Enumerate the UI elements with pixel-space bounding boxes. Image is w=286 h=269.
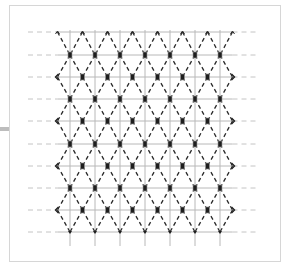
diagonal-edge — [195, 77, 208, 99]
diagonal-edge — [183, 32, 196, 55]
diagonal-edge — [208, 77, 221, 99]
lattice-node — [143, 185, 147, 191]
lattice-node — [181, 163, 185, 169]
diagonal-edge — [58, 166, 71, 188]
diagonal-edge — [158, 188, 171, 210]
diagonal-edge — [83, 210, 96, 232]
diagonal-edge — [183, 121, 196, 144]
diagonal-edge — [58, 99, 71, 121]
diagonal-edge — [145, 99, 158, 121]
lattice-node — [181, 118, 185, 124]
diagonal-edge — [145, 32, 158, 55]
diagonal-edge — [170, 188, 183, 210]
diagonal-edge — [158, 144, 171, 166]
diagonal-edge — [133, 77, 146, 99]
diagonal-edge — [83, 99, 96, 121]
lattice-node — [118, 185, 122, 191]
diagonal-edge — [120, 166, 133, 188]
diagonal-edge — [220, 166, 233, 188]
lattice-node — [93, 185, 97, 191]
diagonal-edge — [195, 188, 208, 210]
lattice-node — [143, 52, 147, 58]
lattice-node — [193, 185, 197, 191]
diagonal-edge — [208, 210, 221, 232]
diagonal-edge — [108, 188, 121, 210]
lattice-node — [143, 141, 147, 147]
diagonal-edge — [95, 77, 108, 99]
lattice-node — [193, 141, 197, 147]
diagonal-edge — [183, 188, 196, 210]
lattice-node — [81, 118, 85, 124]
diagonal-edge — [170, 121, 183, 144]
diagonal-edge — [83, 166, 96, 188]
diagonal-edge — [195, 99, 208, 121]
diagonal-edge — [58, 210, 71, 232]
diagonal-edge — [158, 210, 171, 232]
diagonal-edge — [95, 121, 108, 144]
lattice-node — [118, 96, 122, 102]
lattice-node — [218, 141, 222, 147]
diagonal-edge — [83, 121, 96, 144]
diagonal-edge — [170, 210, 183, 232]
lattice-node — [168, 52, 172, 58]
lattice-node — [206, 207, 210, 213]
diagonal-edge — [58, 32, 71, 55]
diagonal-edge — [220, 32, 233, 55]
lattice-node — [118, 141, 122, 147]
lattice-node — [81, 207, 85, 213]
diagonal-edge — [108, 77, 121, 99]
diagonal-edge — [133, 32, 146, 55]
lattice-node — [206, 163, 210, 169]
diagonal-edge — [195, 32, 208, 55]
diagonal-edge — [158, 32, 171, 55]
diagonal-edge — [145, 166, 158, 188]
diagonal-edge — [208, 166, 221, 188]
diagonal-edge — [108, 144, 121, 166]
diagonal-edge — [220, 188, 233, 210]
diagonal-edge — [183, 77, 196, 99]
lattice-node — [181, 74, 185, 80]
diagonal-edge — [70, 144, 83, 166]
diagonal-edge — [120, 77, 133, 99]
diagonal-edge — [145, 188, 158, 210]
lattice-node — [131, 74, 135, 80]
lattice-node — [68, 52, 72, 58]
diagonal-edge — [120, 144, 133, 166]
diagonal-edge — [83, 144, 96, 166]
lattice-node — [218, 96, 222, 102]
diagonal-edge — [120, 210, 133, 232]
lattice-node — [156, 163, 160, 169]
diagonal-edge — [133, 188, 146, 210]
diagonal-edge — [145, 121, 158, 144]
lattice-node — [131, 207, 135, 213]
lattice-node — [81, 163, 85, 169]
diagonal-edge — [108, 32, 121, 55]
diagonal-edge — [208, 99, 221, 121]
lattice-node — [93, 141, 97, 147]
diagonal-edge — [220, 99, 233, 121]
diagonal-edge — [108, 121, 121, 144]
diagonal-edge — [83, 188, 96, 210]
diagonal-edge — [195, 144, 208, 166]
diagonal-edge — [108, 99, 121, 121]
diagonal-edge — [70, 188, 83, 210]
diagonal-edge — [108, 166, 121, 188]
triangular-lattice-diagram — [0, 0, 286, 269]
lattice-node — [68, 185, 72, 191]
lattice-node — [168, 185, 172, 191]
lattice-node — [68, 141, 72, 147]
diagonal-edge — [120, 99, 133, 121]
lattice-node — [131, 118, 135, 124]
diagonal-edge — [170, 166, 183, 188]
diagonal-edge — [70, 166, 83, 188]
diagonal-edge — [70, 32, 83, 55]
diagonal-edge — [108, 210, 121, 232]
diagonal-edge — [133, 210, 146, 232]
diagonal-edge — [95, 144, 108, 166]
lattice-node — [93, 52, 97, 58]
lattice-node — [81, 74, 85, 80]
lattice-node — [106, 163, 110, 169]
diagonal-edge — [70, 210, 83, 232]
diagonal-edge — [133, 166, 146, 188]
diagonal-edge — [95, 32, 108, 55]
